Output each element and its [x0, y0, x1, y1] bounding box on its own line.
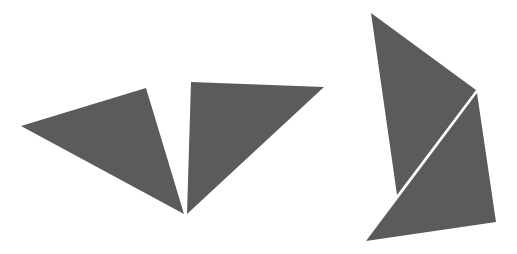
triangles-diagram [0, 0, 517, 254]
left-triangle-1 [21, 88, 184, 214]
diagram-canvas: Four dark gray triangles arranged as two… [0, 0, 517, 254]
right-group [366, 13, 496, 241]
left-group [21, 82, 324, 214]
left-triangle-2 [187, 82, 324, 214]
